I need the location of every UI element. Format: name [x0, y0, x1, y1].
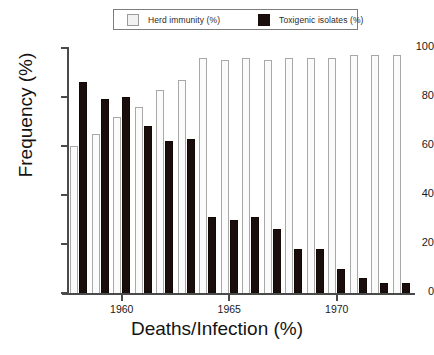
- bar-herd-immunity-1972: [371, 55, 379, 293]
- bar-toxigenic-isolates-1964: [208, 217, 216, 293]
- legend-swatch-toxigenic-isolates: [258, 14, 270, 26]
- bar-toxigenic-isolates-1962: [165, 141, 173, 293]
- legend-swatch-herd-immunity: [127, 14, 139, 26]
- bar-herd-immunity-1963: [178, 80, 186, 293]
- chart-legend: Herd immunity (%) Toxigenic isolates (%): [113, 9, 358, 30]
- bar-herd-immunity-1965: [221, 60, 229, 293]
- bar-herd-immunity-1970: [328, 58, 336, 293]
- y-axis-tick-20: [61, 243, 68, 245]
- x-axis-tick-1970: [336, 294, 338, 301]
- y-axis-tick-100: [61, 47, 68, 49]
- x-axis-tick-1960: [121, 294, 123, 301]
- bar-toxigenic-isolates-1973: [402, 283, 410, 293]
- bar-herd-immunity-1968: [285, 58, 293, 293]
- bar-toxigenic-isolates-1965: [230, 220, 238, 294]
- bar-toxigenic-isolates-1963: [187, 139, 195, 293]
- legend-label-herd-immunity: Herd immunity (%): [148, 15, 220, 25]
- bar-herd-immunity-1969: [307, 58, 315, 293]
- legend-label-toxigenic-isolates: Toxigenic isolates (%): [279, 15, 363, 25]
- bar-toxigenic-isolates-1959: [101, 99, 109, 293]
- bar-herd-immunity-1966: [242, 58, 250, 293]
- bar-chart-figure: Herd immunity (%) Toxigenic isolates (%)…: [0, 0, 434, 355]
- bar-herd-immunity-1958: [70, 146, 78, 293]
- bar-herd-immunity-1962: [156, 90, 164, 293]
- x-axis-title: Deaths/Infection (%): [0, 318, 434, 340]
- bar-herd-immunity-1971: [350, 55, 358, 293]
- bar-herd-immunity-1961: [135, 107, 143, 293]
- bar-toxigenic-isolates-1968: [294, 249, 302, 293]
- plot-area: [68, 48, 412, 293]
- x-axis-tick-1965: [228, 294, 230, 301]
- bar-toxigenic-isolates-1972: [380, 283, 388, 293]
- y-axis-tick-60: [61, 145, 68, 147]
- bar-toxigenic-isolates-1960: [122, 97, 130, 293]
- bar-toxigenic-isolates-1969: [316, 249, 324, 293]
- y-axis-tick-0: [61, 292, 68, 294]
- bar-toxigenic-isolates-1958: [79, 82, 87, 293]
- bar-toxigenic-isolates-1971: [359, 278, 367, 293]
- bar-toxigenic-isolates-1966: [251, 217, 259, 293]
- y-axis-title: Frequency (%): [15, 5, 37, 225]
- bar-herd-immunity-1959: [92, 134, 100, 293]
- x-axis-tick-label-1960: 1960: [110, 303, 133, 315]
- legend-entry-toxigenic-isolates: Toxigenic isolates (%): [258, 14, 363, 26]
- bar-herd-immunity-1973: [393, 55, 401, 293]
- bar-herd-immunity-1967: [264, 60, 272, 293]
- legend-entry-herd-immunity: Herd immunity (%): [127, 14, 220, 26]
- y-axis-tick-80: [61, 96, 68, 98]
- x-axis-tick-label-1965: 1965: [218, 303, 241, 315]
- x-axis-line: [62, 293, 415, 295]
- x-axis-tick-label-1970: 1970: [325, 303, 348, 315]
- y-axis-tick-40: [61, 194, 68, 196]
- bar-toxigenic-isolates-1970: [337, 269, 345, 294]
- bar-herd-immunity-1960: [113, 117, 121, 293]
- bar-toxigenic-isolates-1967: [273, 229, 281, 293]
- bar-toxigenic-isolates-1961: [144, 126, 152, 293]
- bar-herd-immunity-1964: [199, 58, 207, 293]
